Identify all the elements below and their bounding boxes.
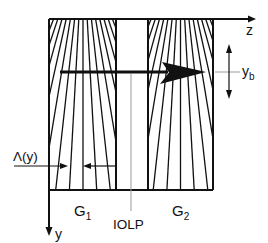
grating-period-label: Λ(y): [13, 149, 38, 164]
grating-line: [112, 19, 159, 190]
grating-line: [153, 19, 172, 190]
grating-line: [193, 19, 221, 190]
beam-position-label-sub: b: [249, 71, 255, 82]
y-axis-label: y: [55, 226, 62, 242]
grating-g1-label: G1: [74, 202, 92, 222]
grating-g2-label-main: G: [172, 202, 184, 219]
grating-line: [42, 19, 70, 190]
grating-line: [100, 19, 138, 190]
double-arrow-up-icon: [226, 44, 232, 53]
grating-line: [69, 19, 78, 190]
double-arrow-down-icon: [226, 90, 232, 99]
grating-line: [189, 19, 208, 190]
period-arrow-right-icon: [60, 163, 68, 169]
beam-position-label-main: y: [242, 63, 249, 79]
grating-line: [0, 19, 54, 190]
grating-line: [15, 19, 62, 190]
period-arrow-left-icon: [83, 163, 91, 169]
grating-line: [202, 19, 249, 190]
iolp-label: IOLP: [113, 217, 144, 232]
grating-line: [210, 19, 268, 190]
grating-g1-label-main: G: [74, 202, 86, 219]
y-axis-arrowhead-icon: [46, 227, 53, 236]
grating-g2-lines: [85, 19, 268, 190]
z-axis-label: z: [246, 22, 253, 38]
grating-line: [167, 19, 176, 190]
grating-line: [96, 19, 124, 190]
beam-position-label: yb: [242, 63, 255, 82]
grating-line: [197, 19, 235, 190]
grating-g1-label-sub: 1: [86, 211, 92, 222]
grating-line: [140, 19, 168, 190]
grating-line: [91, 19, 110, 190]
grating-g2-label-sub: 2: [184, 211, 190, 222]
grating-line: [206, 19, 263, 190]
chirped-grating-diagram: z y IOLP yb Λ(y) G1 G2: [0, 0, 268, 243]
grating-line: [126, 19, 164, 190]
grating-g2-label: G2: [172, 202, 190, 222]
grating-line: [104, 19, 151, 190]
grating-line: [185, 19, 195, 190]
grating-line: [56, 19, 75, 190]
